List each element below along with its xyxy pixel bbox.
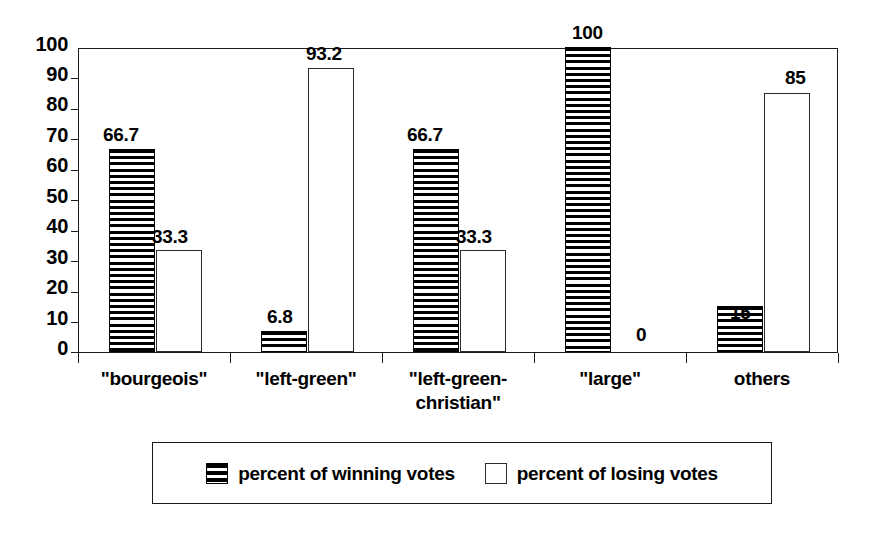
bar-value-losing-left-green-christian: 33.3 xyxy=(456,227,492,246)
y-tick-label-0: 0 xyxy=(16,338,68,358)
y-tick-label-20: 20 xyxy=(16,277,68,297)
bar-winning-bourgeois xyxy=(109,149,155,352)
bar-value-winning-others: 15 xyxy=(730,303,751,322)
legend-entry-losing: percent of losing votes xyxy=(485,463,718,484)
bar-value-losing-left-green: 93.2 xyxy=(306,44,342,63)
y-tick-label-90: 90 xyxy=(16,64,68,84)
bar-value-losing-bourgeois: 33.3 xyxy=(152,227,188,246)
y-tick-label-30: 30 xyxy=(16,247,68,267)
x-tick-mark-5 xyxy=(838,353,839,363)
category-label-left-green-christian: "left-green- christian" xyxy=(382,367,534,415)
category-label-large: "large" xyxy=(534,367,686,391)
bar-value-losing-large: 0 xyxy=(636,325,646,344)
category-label-line1: "large" xyxy=(534,367,686,391)
bar-value-winning-bourgeois: 66.7 xyxy=(103,125,139,144)
bar-losing-others xyxy=(764,93,810,352)
bar-value-losing-others: 85 xyxy=(785,68,806,87)
bar-winning-left-green-christian xyxy=(413,149,459,352)
y-tick-label-100: 100 xyxy=(16,34,68,54)
category-label-others: others xyxy=(686,367,838,391)
bar-winning-left-green xyxy=(261,331,307,352)
category-label-line2: christian" xyxy=(382,391,534,415)
legend-label-winning: percent of winning votes xyxy=(238,464,455,483)
y-tick-label-70: 70 xyxy=(16,125,68,145)
category-label-line1: "left-green- xyxy=(382,367,534,391)
bar-value-winning-left-green-christian: 66.7 xyxy=(407,125,443,144)
category-label-line1: "bourgeois" xyxy=(78,367,230,391)
striped-swatch-icon xyxy=(206,463,228,484)
category-label-bourgeois: "bourgeois" xyxy=(78,367,230,391)
bar-losing-left-green-christian xyxy=(460,250,506,352)
y-tick-label-40: 40 xyxy=(16,216,68,236)
y-axis: 100 90 80 70 60 50 40 30 20 10 0 xyxy=(16,30,68,370)
bar-value-winning-left-green: 6.8 xyxy=(267,307,293,326)
bar-losing-bourgeois xyxy=(156,250,202,352)
bar-losing-left-green xyxy=(308,68,354,352)
plot-area xyxy=(78,48,838,353)
x-tick-mark-1 xyxy=(230,353,231,363)
y-tick-label-50: 50 xyxy=(16,186,68,206)
category-label-left-green: "left-green" xyxy=(230,367,382,391)
y-tick-label-10: 10 xyxy=(16,308,68,328)
legend-label-losing: percent of losing votes xyxy=(517,464,718,483)
x-tick-mark-4 xyxy=(686,353,687,363)
x-tick-mark-0 xyxy=(78,353,79,363)
y-tick-label-60: 60 xyxy=(16,155,68,175)
x-tick-mark-2 xyxy=(382,353,383,363)
legend-entry-winning: percent of winning votes xyxy=(206,463,455,484)
category-label-line1: "left-green" xyxy=(230,367,382,391)
bar-value-winning-large: 100 xyxy=(572,23,603,42)
category-label-line1: others xyxy=(686,367,838,391)
open-swatch-icon xyxy=(485,463,507,484)
y-tick-label-80: 80 xyxy=(16,94,68,114)
chart-legend: percent of winning votes percent of losi… xyxy=(152,442,772,504)
bar-winning-large xyxy=(565,47,611,352)
bar-chart: 100 90 80 70 60 50 40 30 20 10 0 xyxy=(0,0,872,533)
x-tick-mark-3 xyxy=(534,353,535,363)
